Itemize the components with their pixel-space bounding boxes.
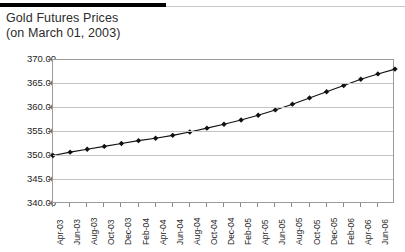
x-axis-tick — [86, 203, 87, 207]
x-axis-tick-label: Jun-03 — [73, 219, 82, 245]
x-axis-tick — [377, 203, 378, 207]
x-axis-tick — [326, 203, 327, 207]
data-point-marker — [238, 117, 243, 122]
x-axis-tick — [69, 203, 70, 207]
x-axis-tick-label: Jun-04 — [176, 219, 185, 245]
x-axis-tick-label: Aug-03 — [90, 218, 99, 245]
x-axis-tick — [103, 203, 104, 207]
x-axis-tick — [155, 203, 156, 207]
x-axis-tick — [360, 203, 361, 207]
chart-title-line-2: (on March 01, 2003) — [6, 26, 346, 41]
x-axis-tick-label: Feb-05 — [244, 218, 253, 245]
x-axis-tick-label: Feb-06 — [347, 218, 356, 245]
data-point-marker — [170, 133, 175, 138]
data-point-marker — [102, 144, 107, 149]
x-axis-tick-label: Jun-06 — [381, 219, 390, 245]
data-point-marker — [85, 147, 90, 152]
chart-title: Gold Futures Prices (on March 01, 2003) — [6, 11, 346, 40]
data-point-marker — [324, 89, 329, 94]
x-axis-tick — [240, 203, 241, 207]
data-point-marker — [136, 138, 141, 143]
gridline — [53, 155, 393, 156]
x-axis-tick — [309, 203, 310, 207]
x-axis-tick — [206, 203, 207, 207]
gridline — [53, 179, 393, 180]
x-axis-tick — [189, 203, 190, 207]
gridline — [53, 83, 393, 84]
data-point-marker — [375, 71, 380, 76]
x-axis-tick-label: Dec-04 — [227, 218, 236, 245]
gridline — [53, 107, 393, 108]
x-axis-tick — [120, 203, 121, 207]
x-axis-tick — [52, 203, 53, 207]
header-rule-thick — [0, 3, 166, 7]
data-point-marker — [307, 95, 312, 100]
data-point-marker — [256, 113, 261, 118]
x-axis-tick — [138, 203, 139, 207]
x-axis-tick-label: Oct-04 — [210, 219, 219, 245]
series-layer — [53, 60, 395, 204]
series-markers — [50, 66, 397, 158]
x-axis-tick — [274, 203, 275, 207]
x-axis-tick-label: Dec-03 — [124, 218, 133, 245]
data-point-marker — [392, 66, 397, 71]
x-axis-tick — [343, 203, 344, 207]
x-axis: Apr-03Jun-03Aug-03Oct-03Dec-03Feb-04Apr-… — [52, 203, 394, 252]
x-axis-tick-label: Dec-05 — [330, 218, 339, 245]
chart-title-line-1: Gold Futures Prices — [6, 11, 346, 26]
plot-area — [52, 59, 394, 203]
x-axis-tick-label: Aug-04 — [193, 218, 202, 245]
x-axis-tick-label: Apr-06 — [364, 219, 373, 245]
x-axis-tick-label: Oct-03 — [107, 219, 116, 245]
x-axis-tick — [257, 203, 258, 207]
x-axis-tick-label: Feb-04 — [142, 218, 151, 245]
data-point-marker — [119, 141, 124, 146]
x-axis-tick-label: Aug-05 — [295, 218, 304, 245]
x-axis-tick-label: Apr-04 — [159, 219, 168, 245]
x-axis-tick — [172, 203, 173, 207]
chart-area: 370.00365.00360.00355.00350.00345.00340.… — [0, 50, 405, 252]
data-point-marker — [273, 107, 278, 112]
data-point-marker — [221, 122, 226, 127]
x-axis-tick-label: Apr-05 — [261, 219, 270, 245]
gridline — [53, 131, 393, 132]
x-axis-tick-label: Oct-05 — [313, 219, 322, 245]
data-point-marker — [358, 77, 363, 82]
x-axis-tick-label: Jun-05 — [278, 219, 287, 245]
x-axis-tick — [291, 203, 292, 207]
x-axis-tick-label: Apr-03 — [56, 219, 65, 245]
data-point-marker — [153, 136, 158, 141]
x-axis-tick — [223, 203, 224, 207]
